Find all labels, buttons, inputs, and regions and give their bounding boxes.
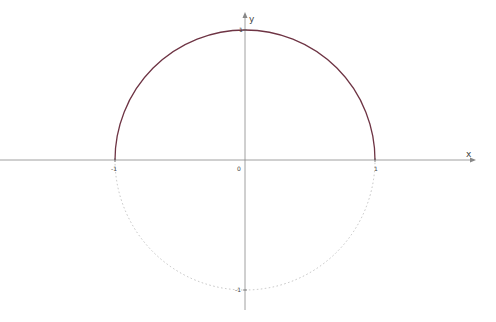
x-tick-label-pos1: 1: [374, 165, 378, 172]
y-tick-label-pos1: 1: [239, 26, 243, 33]
y-axis-arrow-icon: [243, 12, 248, 18]
x-tick-label-neg1: -1: [111, 165, 117, 172]
origin-label: 0: [237, 165, 241, 172]
plot-canvas: y x 0 -1 1 1 -1: [0, 0, 496, 322]
x-axis-label: x: [466, 149, 472, 159]
y-tick-label-neg1: -1: [235, 286, 241, 293]
y-axis-label: y: [249, 14, 255, 24]
